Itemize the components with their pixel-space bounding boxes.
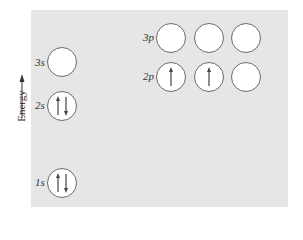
orbital-3p-2 [194, 23, 224, 53]
level-label-3s: 3s [35, 57, 45, 68]
level-label-3p: 3p [143, 32, 154, 43]
electron-up-icon [195, 63, 223, 91]
level-label-1s: 1s [35, 177, 45, 188]
orbital-1s [47, 168, 77, 198]
electron-up-icon [157, 63, 185, 91]
orbital-3s [47, 47, 77, 77]
level-label-2p: 2p [143, 71, 154, 82]
orbital-2p-3 [231, 62, 261, 92]
energy-axis-label: Energy [15, 86, 27, 126]
electron-pair-icon [48, 169, 76, 197]
orbital-2p-1 [156, 62, 186, 92]
orbital-3p-3 [231, 23, 261, 53]
orbital-3p-1 [156, 23, 186, 53]
orbital-2p-2 [194, 62, 224, 92]
orbital-2s [47, 91, 77, 121]
electron-pair-icon [48, 92, 76, 120]
level-label-2s: 2s [35, 100, 45, 111]
